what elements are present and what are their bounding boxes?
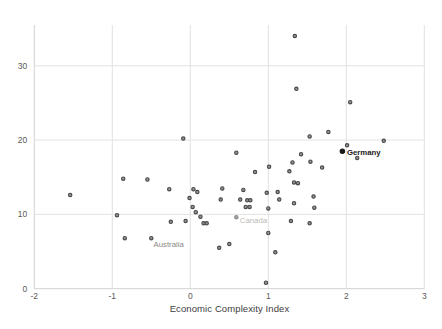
- data-point: [217, 246, 220, 249]
- data-point: [265, 191, 268, 194]
- data-point: [239, 198, 242, 201]
- data-point: [249, 199, 252, 202]
- data-point: [345, 144, 348, 147]
- x-tick-label: -1: [109, 291, 117, 301]
- data-point: [267, 165, 270, 168]
- data-point: [320, 166, 323, 169]
- y-tick-label: 10: [18, 209, 28, 219]
- y-tick-label: 0: [23, 284, 28, 294]
- x-tick-label: 0: [188, 291, 193, 301]
- data-point: [292, 181, 295, 184]
- data-point: [308, 135, 311, 138]
- data-point: [221, 187, 224, 190]
- data-point: [244, 205, 247, 208]
- data-point: [267, 207, 270, 210]
- data-point: [146, 178, 149, 181]
- data-point: [309, 160, 312, 163]
- data-point: [248, 205, 251, 208]
- data-point: [295, 87, 298, 90]
- data-point: [169, 220, 172, 223]
- data-point: [274, 251, 277, 254]
- data-point: [299, 153, 302, 156]
- x-tick-label: 2: [344, 291, 349, 301]
- point-label-germany: Germany: [347, 148, 381, 157]
- data-point: [382, 139, 385, 142]
- data-point: [68, 193, 71, 196]
- point-label-australia: Australia: [154, 240, 185, 249]
- data-point: [293, 34, 296, 37]
- data-point: [235, 151, 238, 154]
- data-point: [264, 281, 267, 284]
- data-point: [184, 219, 187, 222]
- data-point: [278, 198, 281, 201]
- data-point: [349, 101, 352, 104]
- data-point: [205, 222, 208, 225]
- x-axis-title: Economic Complexity Index: [0, 303, 442, 314]
- data-point: [199, 215, 202, 218]
- data-point: [313, 206, 316, 209]
- data-point: [291, 161, 294, 164]
- data-point: [242, 188, 245, 191]
- data-point: [253, 170, 256, 173]
- data-point: [312, 195, 315, 198]
- data-point: [267, 231, 270, 234]
- data-point-australia: [150, 236, 153, 239]
- data-point: [122, 177, 125, 180]
- data-point: [194, 210, 197, 213]
- data-point: [123, 236, 126, 239]
- data-point-germany: [340, 149, 344, 153]
- data-point: [276, 190, 279, 193]
- data-point: [188, 196, 191, 199]
- data-point: [289, 219, 292, 222]
- y-tick-label: 30: [18, 61, 28, 71]
- data-point: [327, 130, 330, 133]
- data-point: [308, 222, 311, 225]
- data-point-canada: [235, 216, 238, 219]
- data-point: [196, 190, 199, 193]
- scatter-chart: -2-101230102030GermanyCanadaAustralia Ec…: [0, 0, 442, 329]
- data-point: [191, 205, 194, 208]
- y-tick-label: 20: [18, 135, 28, 145]
- data-point: [288, 170, 291, 173]
- data-point: [168, 187, 171, 190]
- x-tick-label: 3: [422, 291, 427, 301]
- data-point: [228, 242, 231, 245]
- x-tick-label: 1: [266, 291, 271, 301]
- data-point: [182, 137, 185, 140]
- point-label-canada: Canada: [240, 216, 268, 225]
- data-point: [292, 202, 295, 205]
- data-point: [192, 187, 195, 190]
- plot-area: -2-101230102030GermanyCanadaAustralia: [0, 0, 442, 329]
- x-tick-label: -2: [31, 291, 39, 301]
- data-point: [296, 181, 299, 184]
- data-point: [115, 213, 118, 216]
- data-point: [219, 198, 222, 201]
